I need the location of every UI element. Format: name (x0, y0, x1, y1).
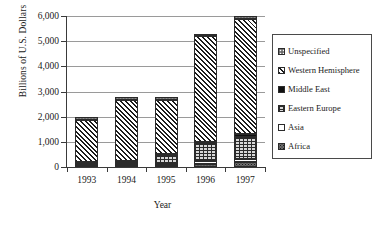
bar-segment-western-hemisphere (194, 36, 217, 141)
plot-area: 01,0002,0003,0004,0005,0006,000199319941… (66, 16, 265, 168)
y-axis-tick-label: 0 (54, 162, 59, 172)
legend-swatch-icon (278, 143, 285, 150)
bar-segment-western-hemisphere (234, 19, 257, 134)
legend-item-unspecified[interactable]: Unspecified (278, 42, 371, 61)
x-axis-title: Year (60, 200, 265, 210)
legend-item-asia[interactable]: Asia (278, 118, 371, 137)
legend-item-eastern-europe[interactable]: Eastern Europe (278, 99, 371, 118)
bar-segment-unspecified (194, 34, 217, 36)
y-axis-tick-label: 4,000 (38, 61, 59, 71)
x-axis-tick (146, 167, 147, 172)
legend-item-label: Middle East (288, 85, 330, 94)
legend-item-label: Africa (288, 142, 310, 151)
legend-swatch-icon (278, 67, 285, 74)
x-axis-tick (107, 167, 108, 172)
bar-segment-eastern-europe (234, 137, 257, 160)
y-axis-tick (61, 92, 67, 93)
bar-segment-western-hemisphere (155, 100, 178, 154)
x-axis-tick-label: 1997 (236, 175, 255, 185)
bar-segment-unspecified (115, 97, 138, 100)
x-axis-tick-label: 1994 (117, 175, 136, 185)
x-axis-tick-label: 1993 (77, 175, 96, 185)
bar-segment-unspecified (234, 16, 257, 19)
chart-legend: UnspecifiedWestern HemisphereMiddle East… (272, 34, 372, 159)
bar-segment-africa (234, 162, 257, 167)
x-axis-tick-label: 1996 (196, 175, 215, 185)
bar-segment-unspecified (155, 97, 178, 100)
x-axis-tick-label: 1995 (157, 175, 176, 185)
bar-segment-eastern-europe (155, 155, 178, 164)
y-axis-tick (61, 142, 67, 143)
y-axis-tick (61, 117, 67, 118)
x-axis-tick (265, 167, 266, 172)
bar-segment-eastern-europe (194, 143, 217, 161)
legend-item-label: Eastern Europe (288, 104, 341, 113)
bar-segment-western-hemisphere (75, 120, 98, 162)
y-axis-tick-label: 1,000 (38, 137, 59, 147)
bar-segment-africa (115, 165, 138, 167)
y-axis-tick (61, 16, 67, 17)
bar-segment-asia (234, 159, 257, 162)
bar-segment-middle-east (234, 134, 257, 137)
y-axis-tick (61, 66, 67, 67)
y-axis-tick-label: 5,000 (38, 36, 59, 46)
legend-swatch-icon (278, 124, 285, 131)
bar-segment-africa (155, 165, 178, 167)
bar-1997 (234, 16, 257, 167)
x-axis-tick (186, 167, 187, 172)
bar-1996 (194, 16, 217, 167)
bar-segment-unspecified (75, 117, 98, 121)
legend-item-label: Asia (288, 123, 304, 132)
legend-item-label: Unspecified (288, 47, 330, 56)
bar-1995 (155, 16, 178, 167)
bar-1993 (75, 16, 98, 167)
legend-item-western-hemisphere[interactable]: Western Hemisphere (278, 61, 371, 80)
stacked-bar-chart: Billions of U.S. Dollars Year 01,0002,00… (0, 0, 378, 228)
bar-segment-eastern-europe (115, 162, 138, 164)
y-axis-tick-label: 3,000 (38, 87, 59, 97)
bar-segment-western-hemisphere (115, 100, 138, 162)
x-axis-tick (67, 167, 68, 172)
bar-1994 (115, 16, 138, 167)
legend-swatch-icon (278, 86, 285, 93)
legend-item-middle-east[interactable]: Middle East (278, 80, 371, 99)
y-axis-tick-label: 6,000 (38, 11, 59, 21)
bar-segment-africa (194, 164, 217, 167)
y-axis-tick-label: 2,000 (38, 112, 59, 122)
y-axis-title: Billions of U.S. Dollars (18, 0, 28, 126)
legend-swatch-icon (278, 48, 285, 55)
legend-item-africa[interactable]: Africa (278, 137, 371, 156)
y-axis-tick (61, 41, 67, 42)
legend-item-label: Western Hemisphere (288, 66, 360, 75)
x-axis-tick (225, 167, 226, 172)
legend-swatch-icon (278, 105, 285, 112)
bar-segment-asia (194, 161, 217, 164)
